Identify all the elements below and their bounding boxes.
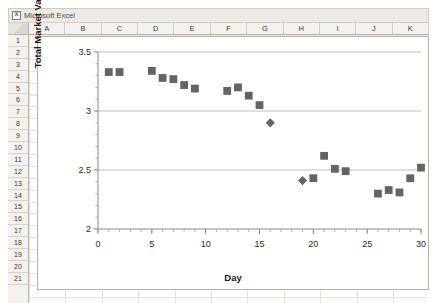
data-point-square	[180, 81, 188, 89]
column-header-i[interactable]: I	[320, 23, 356, 34]
column-header-a[interactable]: A	[29, 23, 65, 34]
row-header[interactable]: 2	[8, 47, 28, 59]
data-point-square	[234, 84, 242, 92]
column-header-b[interactable]: B	[65, 23, 101, 34]
column-header-c[interactable]: C	[102, 23, 138, 34]
row-header[interactable]: 10	[8, 142, 28, 154]
row-header[interactable]: 4	[8, 71, 28, 83]
data-point-square	[245, 92, 253, 100]
data-point-square	[105, 68, 113, 76]
x-axis-tick-label: 15	[254, 239, 264, 249]
data-point-square	[406, 174, 414, 182]
y-axis-tick-label: 2	[86, 224, 91, 234]
column-header-h[interactable]: H	[284, 23, 320, 34]
y-axis-tick-label: 3	[86, 106, 91, 116]
row-header-column: 1 2 3 4 5 6 7 8 9 10 11 12 13 14 15 16 1…	[8, 35, 29, 303]
x-axis-tick-label: 10	[201, 239, 211, 249]
row-header[interactable]: 20	[8, 261, 28, 273]
row-header[interactable]: 21	[8, 273, 28, 285]
data-point-square	[342, 167, 350, 175]
column-header-e[interactable]: E	[174, 23, 210, 34]
row-header[interactable]: 9	[8, 130, 28, 142]
column-header-d[interactable]: D	[138, 23, 174, 34]
row-header[interactable]: 16	[8, 213, 28, 225]
data-point-square	[116, 68, 124, 76]
row-header[interactable]: 3	[8, 59, 28, 71]
data-point-square	[169, 75, 177, 83]
data-point-diamond	[266, 118, 275, 127]
row-header[interactable]: 6	[8, 94, 28, 106]
row-header[interactable]: 19	[8, 249, 28, 261]
column-header-k[interactable]: K	[393, 23, 429, 34]
row-header[interactable]: 8	[8, 118, 28, 130]
embedded-scatter-chart[interactable]: Total Market Value ($ trillion) Day 22.5…	[37, 36, 429, 290]
excel-icon	[12, 11, 21, 20]
select-all-corner[interactable]	[8, 23, 29, 34]
row-header[interactable]: 17	[8, 225, 28, 237]
row-header[interactable]: 13	[8, 178, 28, 190]
data-point-square	[417, 164, 425, 172]
chart-plot-area: 22.533.5051015202530	[38, 37, 430, 291]
x-axis-tick-label: 0	[95, 239, 100, 249]
data-point-square	[148, 67, 156, 75]
x-axis-tick-label: 30	[416, 239, 426, 249]
data-point-square	[159, 74, 167, 82]
x-axis-title: Day	[38, 272, 428, 283]
window-title: Microsoft Excel	[24, 11, 75, 20]
y-axis-tick-label: 2.5	[78, 165, 91, 175]
row-header[interactable]: 5	[8, 83, 28, 95]
row-header[interactable]: 18	[8, 237, 28, 249]
row-header[interactable]: 12	[8, 166, 28, 178]
column-header-row: A B C D E F G H I J K	[8, 22, 429, 35]
data-point-square	[309, 174, 317, 182]
row-header[interactable]: 15	[8, 201, 28, 213]
data-point-square	[320, 152, 328, 160]
data-point-square	[396, 189, 404, 197]
data-point-square	[385, 186, 393, 194]
data-point-diamond	[298, 176, 307, 185]
data-point-square	[256, 101, 264, 109]
data-point-square	[374, 190, 382, 198]
excel-window: Microsoft Excel A B C D E F G H I J K 1 …	[0, 0, 437, 303]
column-header-g[interactable]: G	[247, 23, 283, 34]
window-titlebar: Microsoft Excel	[8, 8, 429, 22]
y-axis-tick-label: 3.5	[78, 47, 91, 57]
column-header-j[interactable]: J	[356, 23, 392, 34]
data-point-square	[191, 85, 199, 93]
row-header[interactable]: 7	[8, 106, 28, 118]
row-header[interactable]: 11	[8, 154, 28, 166]
x-axis-tick-label: 20	[308, 239, 318, 249]
column-header-f[interactable]: F	[211, 23, 247, 34]
x-axis-tick-label: 25	[362, 239, 372, 249]
row-header[interactable]: 1	[8, 35, 28, 47]
data-point-square	[331, 165, 339, 173]
x-axis-tick-label: 5	[149, 239, 154, 249]
data-point-square	[223, 87, 231, 95]
row-header[interactable]: 14	[8, 190, 28, 202]
